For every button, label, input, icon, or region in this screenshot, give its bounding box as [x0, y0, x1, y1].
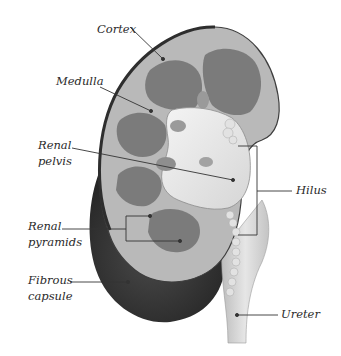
label-renal-pyramids-line1: Renal	[28, 218, 82, 234]
label-medulla-text: Medulla	[56, 73, 104, 89]
label-renal-pyramids-line2: pyramids	[28, 234, 82, 250]
label-renal-pelvis: Renal pelvis	[38, 137, 72, 169]
label-hilus-text: Hilus	[296, 182, 327, 198]
label-ureter: Ureter	[281, 306, 320, 322]
label-fibrous-capsule: Fibrous capsule	[28, 272, 73, 304]
label-medulla: Medulla	[56, 73, 104, 89]
label-fibrous-capsule-line1: Fibrous	[28, 272, 73, 288]
label-cortex-text: Cortex	[97, 21, 136, 37]
label-cortex: Cortex	[97, 21, 136, 37]
label-renal-pelvis-line2: pelvis	[38, 153, 72, 169]
kidney-diagram: Cortex Medulla Renal pelvis Hilus Renal …	[0, 0, 341, 356]
label-renal-pelvis-line1: Renal	[38, 137, 72, 153]
label-hilus: Hilus	[296, 182, 327, 198]
label-ureter-text: Ureter	[281, 306, 320, 322]
label-fibrous-capsule-line2: capsule	[28, 288, 73, 304]
label-renal-pyramids: Renal pyramids	[28, 218, 82, 250]
